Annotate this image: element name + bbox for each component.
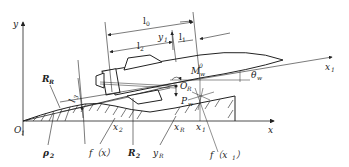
dimension-y1: y 1 bbox=[157, 32, 173, 50]
y-axis: y bbox=[12, 19, 23, 136]
svg-text:R: R bbox=[158, 152, 164, 159]
svg-text:w: w bbox=[188, 100, 194, 107]
dimension-l1: l 1 bbox=[178, 21, 230, 43]
missile-launch-diagram: y x O 1 bbox=[0, 0, 349, 167]
dimension-l2: l 2 bbox=[110, 41, 172, 52]
label-fx1: f（x 1 ） bbox=[209, 150, 245, 161]
launch-rail bbox=[23, 85, 175, 121]
svg-text:R: R bbox=[186, 85, 192, 92]
svg-text:1: 1 bbox=[21, 129, 25, 136]
svg-text:1: 1 bbox=[164, 36, 168, 43]
label-x2: x 2 bbox=[113, 122, 123, 133]
svg-text:y: y bbox=[157, 32, 164, 42]
svg-text:R: R bbox=[127, 148, 136, 158]
svg-text:2: 2 bbox=[118, 126, 123, 133]
theta-label: θ w bbox=[251, 70, 263, 81]
svg-text:w: w bbox=[257, 74, 263, 81]
svg-text:y: y bbox=[152, 148, 159, 158]
label-rho2: ρ 2 bbox=[42, 113, 54, 159]
svg-text:0: 0 bbox=[199, 62, 203, 69]
svg-text:w: w bbox=[200, 70, 206, 77]
ramp-surface bbox=[23, 96, 235, 121]
label-x1: x 1 bbox=[196, 122, 206, 133]
x1-label: x bbox=[325, 62, 330, 72]
label-fx: f（x） bbox=[83, 108, 115, 158]
svg-text:x: x bbox=[196, 122, 201, 132]
svg-text:x: x bbox=[174, 122, 179, 132]
svg-text:ρ: ρ bbox=[42, 148, 50, 158]
svg-text:2: 2 bbox=[135, 152, 140, 159]
x-axis-label: x bbox=[268, 125, 273, 135]
label-xR: x R bbox=[174, 122, 185, 133]
svg-text:3: 3 bbox=[72, 94, 80, 100]
svg-text:2: 2 bbox=[49, 152, 54, 159]
svg-text:1: 1 bbox=[182, 36, 186, 43]
label-RR: R R bbox=[41, 74, 60, 108]
svg-text:f（x）: f（x） bbox=[88, 148, 115, 158]
svg-text:f（x: f（x bbox=[209, 150, 227, 160]
svg-text:0: 0 bbox=[146, 20, 150, 27]
svg-text:R: R bbox=[179, 126, 185, 133]
svg-text:R: R bbox=[48, 78, 54, 85]
svg-text:）: ） bbox=[236, 150, 245, 160]
y-axis-label: y bbox=[12, 19, 19, 29]
label-yR: y R bbox=[152, 116, 176, 159]
svg-text:1: 1 bbox=[202, 126, 206, 133]
svg-text:2: 2 bbox=[140, 45, 144, 52]
svg-text:1: 1 bbox=[331, 66, 335, 73]
x-axis: x bbox=[23, 121, 274, 135]
label-R2: R 2 bbox=[127, 98, 140, 159]
svg-text:P: P bbox=[180, 96, 188, 106]
svg-text:x: x bbox=[113, 122, 118, 132]
point-Pw-label: P w bbox=[180, 96, 194, 107]
